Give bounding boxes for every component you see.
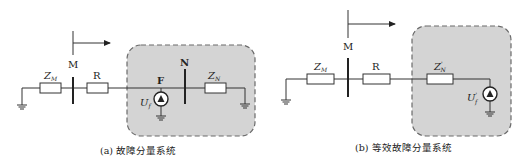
impedance-zm (307, 74, 334, 84)
fault-region-a (127, 45, 255, 136)
label-m: M (343, 41, 353, 52)
figure-a: ZM M R F N ZN Uf (a) 故障分量系统 (17, 31, 255, 156)
label-r: R (93, 70, 101, 81)
ground-icon (17, 88, 27, 109)
impedance-zn (205, 83, 226, 93)
figure-b: ZM M R Z'N U'f (b) 等效故障分量系统 (281, 10, 511, 153)
label-zm: ZM (313, 61, 328, 73)
circuit-diagrams: ZM M R F N ZN Uf (a) 故障分量系统 (0, 0, 521, 164)
label-f: F (157, 75, 164, 86)
label-r: R (372, 61, 380, 72)
resistor-r (363, 74, 390, 84)
label-n: N (180, 57, 189, 68)
caption-a: (a) 故障分量系统 (100, 145, 176, 156)
label-zm: ZM (43, 70, 58, 82)
resistor-r (87, 83, 108, 93)
label-m: M (68, 59, 78, 70)
impedance-zm (40, 83, 61, 93)
impedance-zn-prime (427, 74, 453, 84)
caption-b: (b) 等效故障分量系统 (355, 142, 452, 153)
ground-icon (281, 79, 291, 104)
